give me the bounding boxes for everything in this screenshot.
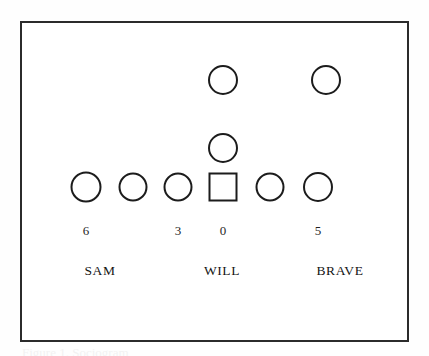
node-circle-r2-c0[interactable] xyxy=(71,172,102,203)
node-circle-r0-c1[interactable] xyxy=(311,65,341,95)
figure-caption: Figure 1. Sociogram xyxy=(22,346,352,356)
name-label-brave: BRAVE xyxy=(316,264,363,278)
count-label-1: 3 xyxy=(175,224,182,237)
count-label-2: 0 xyxy=(220,224,227,237)
node-square-r2-c3[interactable] xyxy=(209,173,238,202)
node-circle-r1-c0[interactable] xyxy=(208,133,238,163)
node-circle-r2-c4[interactable] xyxy=(256,173,285,202)
name-label-sam: SAM xyxy=(84,264,115,278)
node-circle-r2-c5[interactable] xyxy=(303,172,333,202)
figure-root: 6305SAMWILLBRAVE Figure 1. Sociogram xyxy=(0,0,429,356)
node-circle-r2-c2[interactable] xyxy=(164,173,193,202)
node-circle-r0-c0[interactable] xyxy=(208,65,238,95)
node-circle-r2-c1[interactable] xyxy=(119,173,148,202)
count-label-3: 5 xyxy=(315,224,322,237)
count-label-0: 6 xyxy=(83,224,90,237)
name-label-will: WILL xyxy=(204,264,240,278)
